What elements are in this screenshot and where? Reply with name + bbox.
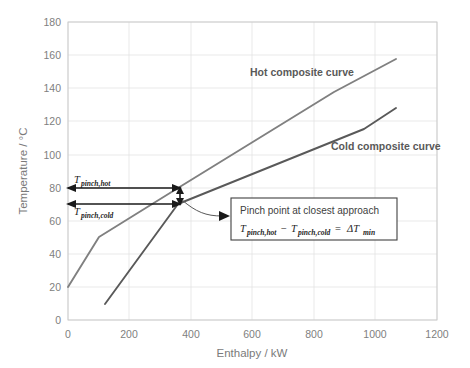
y-tick-60: 60 [49, 215, 61, 227]
x-tick-600: 600 [243, 328, 261, 340]
x-tick-1200: 1200 [425, 328, 449, 340]
x-tick-1000: 1000 [363, 328, 387, 340]
eq-sub1: pinch,hot [246, 228, 277, 237]
y-tick-160: 160 [43, 49, 61, 61]
pinch-hot-subscript: pinch,hot [80, 179, 111, 188]
composite-curves-chart: 180 160 140 120 100 80 60 40 20 0 0 200 … [0, 0, 470, 368]
y-tick-180: 180 [43, 16, 61, 28]
y-tick-0: 0 [55, 314, 61, 326]
y-tick-20: 20 [49, 281, 61, 293]
chart-canvas: 180 160 140 120 100 80 60 40 20 0 0 200 … [0, 0, 470, 368]
eq-sub3: min [363, 228, 375, 237]
x-tick-200: 200 [120, 328, 138, 340]
y-tick-80: 80 [49, 182, 61, 194]
y-axis-title: Temperature / °C [17, 127, 29, 214]
x-tick-400: 400 [182, 328, 200, 340]
y-tick-40: 40 [49, 248, 61, 260]
y-tick-100: 100 [43, 149, 61, 161]
eq-sub2: pinch,cold [297, 228, 331, 237]
x-tick-800: 800 [305, 328, 323, 340]
pinch-cold-subscript: pinch,cold [80, 211, 114, 220]
y-tick-140: 140 [43, 82, 61, 94]
pinch-callout-title: Pinch point at closest approach [240, 205, 379, 216]
eq-delta: ΔT [346, 223, 360, 234]
eq-equals: = [335, 223, 341, 234]
eq-minus: − [281, 223, 287, 234]
x-tick-0: 0 [65, 328, 71, 340]
y-axis-tick-labels: 180 160 140 120 100 80 60 40 20 0 [43, 16, 61, 326]
cold-curve-label: Cold composite curve [331, 140, 441, 152]
x-axis-title: Enthalpy / kW [217, 347, 288, 359]
y-tick-120: 120 [43, 115, 61, 127]
hot-curve-label: Hot composite curve [250, 66, 354, 78]
x-axis-tick-labels: 0 200 400 600 800 1000 1200 [65, 328, 449, 340]
